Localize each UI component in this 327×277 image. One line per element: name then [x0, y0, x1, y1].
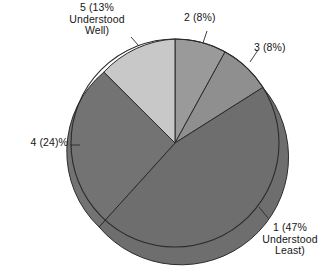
leader-line-5	[131, 37, 139, 46]
pie-chart-figure: 5 (13% Understood Well) 2 (8%) 3 (8%) 4 …	[0, 0, 327, 277]
leader-line-2	[203, 31, 207, 43]
pie-label-4: 4 (24)%	[6, 137, 68, 149]
pie-label-2: 2 (8%)	[184, 12, 246, 24]
pie-label-5: 5 (13% Understood Well)	[54, 2, 140, 37]
pie-label-1: 1 (47% Understood Least)	[253, 222, 327, 257]
pie-label-3: 3 (8%)	[254, 42, 314, 54]
